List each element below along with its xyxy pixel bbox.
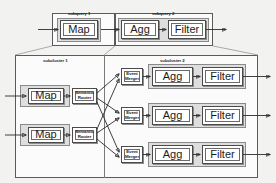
- event-merger-label-1b: Merger: [125, 77, 139, 82]
- cluster-filter-node-1-inner: Filter: [205, 70, 240, 83]
- wire-router1-to-merger1: [97, 74, 119, 93]
- top-filter-node-inner: Filter: [171, 23, 203, 36]
- guide-line-left: [15, 46, 52, 55]
- event-merger-label-2b: Merger: [125, 116, 139, 121]
- cluster-filter-label-1: Filter: [210, 71, 234, 83]
- top-filter-label: Filter: [175, 24, 199, 36]
- semantic-router-label-2b: Router: [78, 135, 92, 140]
- cluster-map-label-2: Map: [35, 129, 56, 141]
- event-merger-node-1-inner: Event Merger: [124, 71, 140, 82]
- semantic-router-node-1-inner: Semantic Router: [75, 91, 94, 101]
- cluster-agg-label-1: Agg: [163, 71, 183, 83]
- cluster-agg-label-2: Agg: [163, 110, 183, 122]
- cluster-agg-label-3: Agg: [163, 149, 183, 161]
- cluster-map-label-1: Map: [35, 90, 56, 102]
- cluster-filter-label-2: Filter: [210, 110, 234, 122]
- wire-router2-to-merger2: [97, 118, 119, 133]
- event-merger-node-3-inner: Event Merger: [124, 149, 140, 160]
- diagram-canvas: subquery 1 subquery 2 Map Agg Filter sub…: [0, 0, 276, 183]
- top-map-label: Map: [68, 24, 89, 36]
- cluster-map-node-1-inner: Map: [31, 91, 61, 101]
- cluster-filter-label-3: Filter: [210, 149, 234, 161]
- guide-line-right: [213, 46, 258, 55]
- semantic-router-label-1b: Router: [78, 96, 92, 101]
- wire-router1-to-merger2: [97, 98, 119, 113]
- event-merger-label-3b: Merger: [125, 155, 139, 160]
- wire-router2-to-merger3: [97, 139, 119, 157]
- cluster-filter-node-2-inner: Filter: [205, 109, 240, 122]
- semantic-router-node-2-inner: Semantic Router: [75, 130, 94, 140]
- cluster-filter-node-3-inner: Filter: [205, 148, 240, 161]
- guide-line-center: [104, 46, 115, 55]
- cluster-map-node-2-inner: Map: [31, 130, 61, 140]
- wire-router1-to-merger3: [97, 102, 119, 152]
- event-merger-node-2-inner: Event Merger: [124, 110, 140, 121]
- top-agg-label: Agg: [130, 24, 150, 36]
- wire-router2-to-merger1: [97, 79, 119, 129]
